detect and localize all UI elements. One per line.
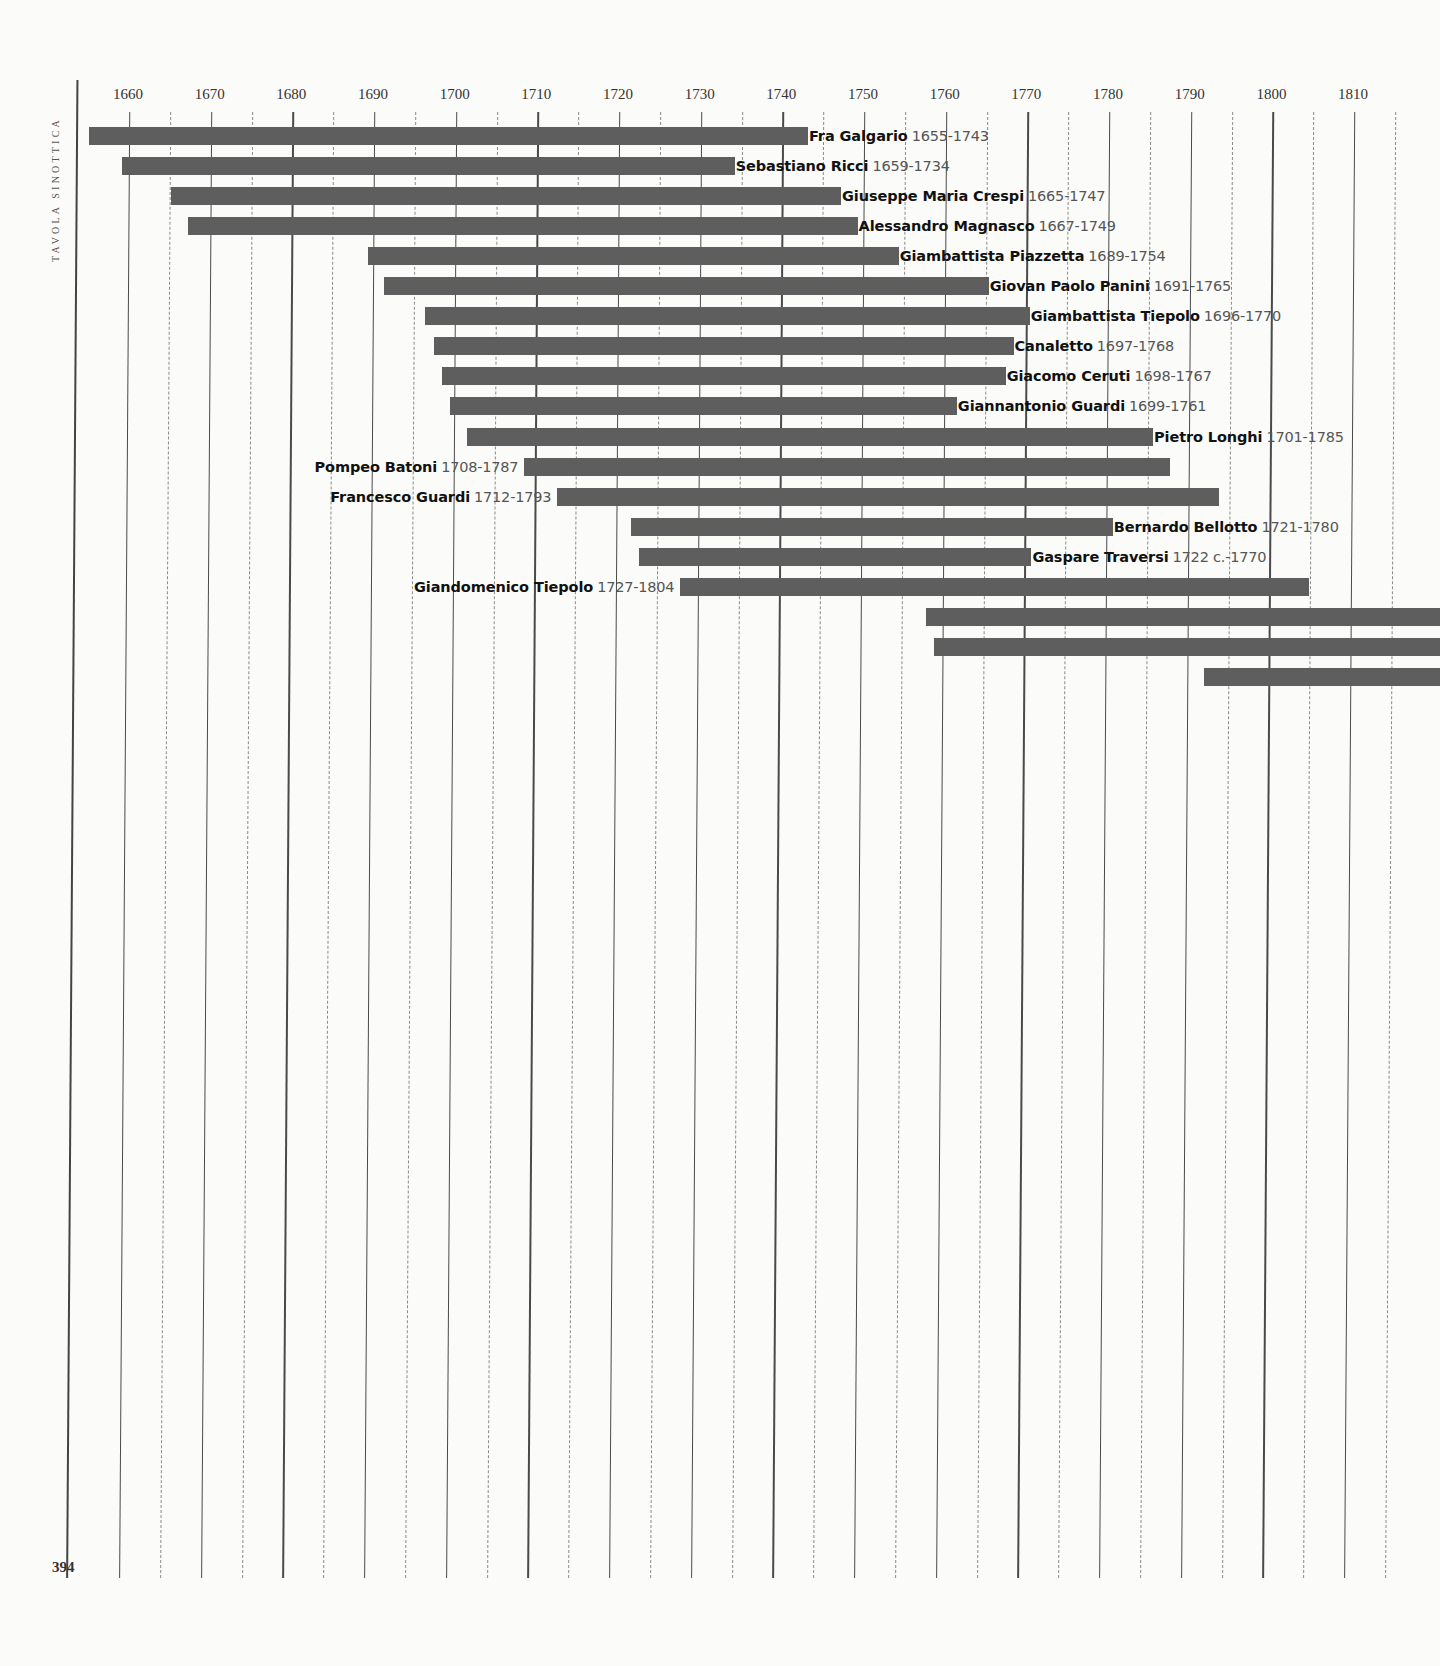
artist-label: Giambattista Tiepolo1696-1770 — [1031, 306, 1281, 326]
grid-line-1730 — [691, 112, 702, 1578]
grid-line-dashed-1755 — [895, 112, 906, 1578]
artist-years: 1697-1768 — [1097, 338, 1174, 354]
grid-line-dashed-1665 — [160, 112, 171, 1578]
artist-label: Francesco Guardi1712-1793 — [330, 487, 551, 507]
x-tick-label: 1680 — [261, 86, 321, 103]
lifespan-bar — [467, 428, 1153, 446]
artist-years: 1689-1754 — [1088, 248, 1165, 264]
artist-years: 1659-1734 — [872, 158, 949, 174]
artist-name: Bernardo Bellotto — [1114, 519, 1258, 535]
artist-label: Pietro Longhi1701-1785 — [1154, 427, 1344, 447]
lifespan-bar — [926, 608, 1440, 626]
artist-label: Pompeo Batoni1708-1787 — [315, 457, 519, 477]
artist-name: Alessandro Magnasco — [859, 218, 1035, 234]
artist-name: Fra Galgario — [809, 128, 908, 144]
grid-line-dashed-1745 — [813, 112, 824, 1578]
lifespan-bar — [639, 548, 1031, 566]
lifespan-bar — [524, 458, 1169, 476]
artist-name: Pietro Longhi — [1154, 429, 1262, 445]
artist-label: Giambattista Piazzetta1689-1754 — [900, 246, 1166, 266]
artist-name: Francesco Guardi — [330, 489, 470, 505]
grid-line-1770 — [1017, 112, 1028, 1578]
lifespan-bar — [122, 157, 735, 175]
artist-years: 1722 c.-1770 — [1173, 549, 1267, 565]
grid-line-dashed-1715 — [568, 112, 579, 1578]
lifespan-bar — [171, 187, 841, 205]
grid-line-dashed-1765 — [977, 112, 988, 1578]
artist-name: Giovan Paolo Panini — [990, 278, 1150, 294]
grid-line-dashed-1775 — [1058, 112, 1069, 1578]
artist-name: Gaspare Traversi — [1032, 549, 1168, 565]
artist-years: 1665-1747 — [1028, 188, 1105, 204]
grid-line-dashed-1815 — [1385, 112, 1396, 1578]
x-tick-label: 1660 — [98, 86, 158, 103]
artist-label: Gaspare Traversi1722 c.-1770 — [1032, 547, 1266, 567]
lifespan-bar — [434, 337, 1014, 355]
artist-years: 1699-1761 — [1129, 398, 1206, 414]
artist-label: Canaletto1697-1768 — [1015, 336, 1175, 356]
lifespan-bar — [89, 127, 808, 145]
grid-line-dashed-1725 — [650, 112, 661, 1578]
artist-label: Giannantonio Guardi1699-1761 — [958, 396, 1206, 416]
grid-line-1740 — [772, 112, 783, 1578]
artist-years: 1708-1787 — [441, 459, 518, 475]
x-tick-label: 1720 — [588, 86, 648, 103]
grid-line-1660 — [119, 112, 130, 1578]
artist-years: 1698-1767 — [1134, 368, 1211, 384]
artist-name: Giacomo Ceruti — [1007, 368, 1131, 384]
artist-name: Canaletto — [1015, 338, 1093, 354]
artist-label: Giovan Paolo Panini1691-1765 — [990, 276, 1231, 296]
x-tick-label: 1730 — [670, 86, 730, 103]
artist-label: Giandomenico Tiepolo1727-1804 — [414, 577, 674, 597]
artist-name: Giambattista Piazzetta — [900, 248, 1085, 264]
grid-line-1680 — [282, 112, 293, 1578]
artist-name: Giuseppe Maria Crespi — [842, 188, 1024, 204]
lifespan-bar — [442, 367, 1006, 385]
x-tick-label: 1780 — [1078, 86, 1138, 103]
artist-years: 1655-1743 — [912, 128, 989, 144]
x-tick-label: 1740 — [751, 86, 811, 103]
lifespan-bar — [557, 488, 1219, 506]
lifespan-bar — [188, 217, 858, 235]
grid-line-dashed-1805 — [1303, 112, 1314, 1578]
artist-label: Bernardo Bellotto1721-1780 — [1114, 517, 1339, 537]
x-tick-label: 1690 — [343, 86, 403, 103]
x-tick-label: 1750 — [833, 86, 893, 103]
x-tick-label: 1800 — [1241, 86, 1301, 103]
x-tick-label: 1810 — [1323, 86, 1383, 103]
x-tick-label: 1760 — [915, 86, 975, 103]
grid-line-1720 — [609, 112, 620, 1578]
artist-label: Sebastiano Ricci1659-1734 — [736, 156, 950, 176]
grid-line-1810 — [1344, 112, 1355, 1578]
artist-name: Pompeo Batoni — [315, 459, 438, 475]
artist-name: Giandomenico Tiepolo — [414, 579, 593, 595]
artist-name: Giannantonio Guardi — [958, 398, 1125, 414]
artist-label: Fra Galgario1655-1743 — [809, 126, 989, 146]
lifespan-bar — [680, 578, 1309, 596]
grid-line-dashed-1685 — [323, 112, 334, 1578]
lifespan-bar — [368, 247, 899, 265]
grid-line-1780 — [1099, 112, 1110, 1578]
lifespan-bar — [384, 277, 988, 295]
artist-label: Giacomo Ceruti1698-1767 — [1007, 366, 1212, 386]
artist-years: 1667-1749 — [1039, 218, 1116, 234]
grid-line-1800 — [1262, 112, 1273, 1578]
grid-line-1750 — [854, 112, 865, 1578]
x-tick-label: 1790 — [1160, 86, 1220, 103]
x-tick-label: 1700 — [425, 86, 485, 103]
grid-line-dashed-1705 — [487, 112, 498, 1578]
lifespan-bar — [631, 518, 1113, 536]
artist-years: 1712-1793 — [474, 489, 551, 505]
lifespan-bar — [934, 638, 1440, 656]
x-tick-label: 1710 — [506, 86, 566, 103]
artist-years: 1691-1765 — [1154, 278, 1231, 294]
artist-years: 1721-1780 — [1261, 519, 1338, 535]
grid-line-dashed-1795 — [1222, 112, 1233, 1578]
artist-name: Giambattista Tiepolo — [1031, 308, 1200, 324]
lifespan-bar — [450, 397, 956, 415]
x-tick-label: 1770 — [996, 86, 1056, 103]
artist-label: Alessandro Magnasco1667-1749 — [859, 216, 1116, 236]
x-tick-label: 1670 — [180, 86, 240, 103]
grid-line-1710 — [527, 112, 538, 1578]
